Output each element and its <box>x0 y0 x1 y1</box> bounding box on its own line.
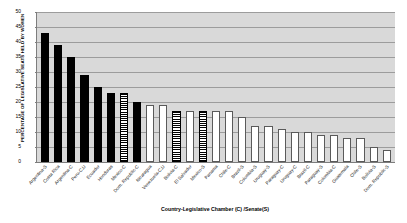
bar <box>159 105 167 162</box>
bar-slot <box>354 12 367 162</box>
bar <box>186 111 194 162</box>
x-label-slot: Colombia-S <box>248 163 261 211</box>
bar-slot <box>367 12 380 162</box>
bar-slot <box>144 12 157 162</box>
y-axis-tick-label: 50 <box>0 9 21 14</box>
y-axis-title: PERCENTAGE OF LEGISLATIVE SEATS HELD BY … <box>20 8 26 148</box>
x-label-slot: Brazil-C <box>300 163 313 211</box>
bar-slot <box>183 12 196 162</box>
x-axis-tick-labels: Argentina-SCosta RicaArgentina-CPeru-C,U… <box>36 163 394 211</box>
bar-slot <box>314 12 327 162</box>
y-axis-tick-label: 35 <box>0 54 21 59</box>
bar-slot <box>157 12 170 162</box>
bar-slot <box>341 12 354 162</box>
bar-slot <box>236 12 249 162</box>
x-label-slot: Guatemala <box>340 163 353 211</box>
x-label-slot: Ecuador <box>90 163 103 211</box>
bar <box>172 111 180 162</box>
x-label-slot: Paraguay-S <box>313 163 326 211</box>
bar-slot <box>39 12 52 162</box>
y-axis-tick-label: 0 <box>0 159 21 164</box>
bar-slot <box>301 12 314 162</box>
bar <box>146 105 154 162</box>
x-label-slot: Chile-C <box>221 163 234 211</box>
bar <box>133 102 141 162</box>
x-label-slot: Paraguay-C <box>274 163 287 211</box>
bar <box>251 126 259 162</box>
bar-slot <box>196 12 209 162</box>
y-axis-tick-label: 45 <box>0 24 21 29</box>
bar-slot <box>222 12 235 162</box>
bar-slot <box>65 12 78 162</box>
bar <box>383 150 391 162</box>
x-label-slot: Costa Rica <box>51 163 64 211</box>
x-label-slot: Panama <box>208 163 221 211</box>
bar <box>343 138 351 162</box>
bar <box>94 87 102 162</box>
x-label-slot: Mexico-S <box>195 163 208 211</box>
bar <box>120 93 128 162</box>
x-label-slot: Argentina-C <box>64 163 77 211</box>
bar <box>291 132 299 162</box>
bar <box>212 111 220 162</box>
bar <box>278 129 286 162</box>
bar-slot <box>262 12 275 162</box>
y-axis-tick-label: 15 <box>0 114 21 119</box>
y-axis-tick-label: 30 <box>0 69 21 74</box>
y-axis-tick-label: 25 <box>0 84 21 89</box>
bar <box>370 147 378 162</box>
x-label-slot: Venezuela-C,U <box>156 163 169 211</box>
bar-chart: PERCENTAGE OF LEGISLATIVE SEATS HELD BY … <box>0 0 407 223</box>
bar-slot <box>209 12 222 162</box>
bar <box>54 45 62 162</box>
bar-slot <box>249 12 262 162</box>
x-axis-title: Country-Legislative Chamber (C) /Senate(… <box>36 206 394 212</box>
bar <box>304 132 312 162</box>
bar <box>80 75 88 162</box>
bar <box>41 33 49 162</box>
plot-area: 05101520253035404550 <box>36 12 395 163</box>
bar-slot <box>288 12 301 162</box>
bar-slot <box>52 12 65 162</box>
bar-slot <box>117 12 130 162</box>
bar-slot <box>328 12 341 162</box>
x-label-slot: Brazil-S <box>235 163 248 211</box>
bar <box>264 126 272 162</box>
x-label-slot: El Salvador <box>182 163 195 211</box>
bar <box>356 138 364 162</box>
bar <box>317 135 325 162</box>
bar-slot <box>91 12 104 162</box>
bar-slot <box>380 12 393 162</box>
bar <box>225 111 233 162</box>
bar <box>330 135 338 162</box>
bar-series <box>37 12 395 162</box>
x-label-slot: Uruguay-C <box>287 163 300 211</box>
x-label-slot: Peru-C,U <box>77 163 90 211</box>
bar-slot <box>104 12 117 162</box>
bar-slot <box>78 12 91 162</box>
x-label-slot: Colombia-C <box>327 163 340 211</box>
x-label-slot: Bolivia-C <box>169 163 182 211</box>
y-axis-tick-label: 40 <box>0 39 21 44</box>
bar <box>107 93 115 162</box>
x-label-slot: Uruguay-S <box>261 163 274 211</box>
x-label-slot: Dom. Republic-S <box>379 163 392 211</box>
y-axis-tick-label: 10 <box>0 129 21 134</box>
x-label-slot: Argentina-S <box>38 163 51 211</box>
bar-slot <box>170 12 183 162</box>
bar-slot <box>275 12 288 162</box>
y-axis-tick-label: 20 <box>0 99 21 104</box>
y-axis-tick-label: 5 <box>0 144 21 149</box>
bar <box>238 117 246 162</box>
bar-slot <box>130 12 143 162</box>
bar <box>67 57 75 162</box>
bar <box>199 111 207 162</box>
